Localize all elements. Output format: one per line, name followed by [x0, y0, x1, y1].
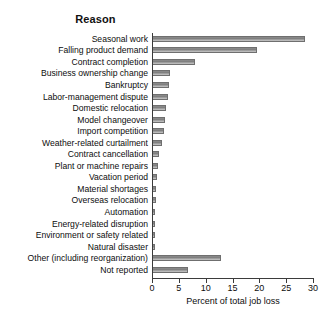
bar [152, 267, 188, 273]
x-tick-label: 10 [201, 283, 211, 293]
category-label: Not reported [100, 265, 148, 274]
x-axis-title: Percent of total job loss [152, 296, 314, 306]
x-tick-label: 20 [254, 283, 264, 293]
category-label: Vacation period [89, 173, 148, 182]
bar [152, 59, 195, 65]
bar-row: Plant or machine repairs [0, 160, 336, 172]
bar-row: Overseas relocation [0, 195, 336, 207]
bar-row: Other (including reorganization) [0, 252, 336, 264]
x-tick-label: 15 [227, 283, 237, 293]
bar-row: Model changeover [0, 114, 336, 126]
bar-row: Not reported [0, 264, 336, 276]
category-label: Weather-related curtailment [42, 138, 148, 147]
category-label: Model changeover [77, 115, 148, 124]
bar [152, 36, 305, 42]
chart-title: Reason [0, 13, 191, 25]
bar [152, 105, 166, 111]
bar-chart-figure: Reason Seasonal workFalling product dema… [0, 0, 336, 316]
bar-row: Material shortages [0, 183, 336, 195]
bar [152, 82, 169, 88]
bar-row: Labor-management dispute [0, 91, 336, 103]
bar-row: Weather-related curtailment [0, 137, 336, 149]
category-label: Seasonal work [92, 34, 148, 43]
bar [152, 117, 165, 123]
bar [152, 151, 159, 157]
category-label: Bankruptcy [105, 80, 148, 89]
bar [152, 197, 156, 203]
bar [152, 174, 157, 180]
bar-row: Domestic relocation [0, 102, 336, 114]
bar [152, 186, 156, 192]
category-label: Automation [105, 208, 148, 217]
bar-row: Bankruptcy [0, 79, 336, 91]
x-tick-label: 30 [308, 283, 318, 293]
bar-row: Natural disaster [0, 241, 336, 253]
bar [152, 47, 257, 53]
category-label: Domestic relocation [73, 104, 148, 113]
bar-row: Environment or safety related [0, 229, 336, 241]
bar [152, 128, 164, 134]
bar-row: Falling product demand [0, 45, 336, 57]
category-label: Overseas relocation [72, 196, 148, 205]
bar-row: Vacation period [0, 172, 336, 184]
category-label: Falling product demand [58, 46, 148, 55]
bar-row: Automation [0, 206, 336, 218]
bar-row: Contract completion [0, 56, 336, 68]
plot-area: Seasonal workFalling product demandContr… [0, 31, 336, 279]
category-label: Business ownership change [41, 69, 148, 78]
bar [152, 255, 221, 261]
category-label: Environment or safety related [36, 231, 148, 240]
category-label: Natural disaster [88, 242, 148, 251]
bar-row: Seasonal work [0, 33, 336, 45]
x-tick-label: 5 [176, 283, 181, 293]
bar-row: Business ownership change [0, 68, 336, 80]
bar-row: Contract cancellation [0, 149, 336, 161]
bar [152, 163, 158, 169]
category-label: Energy-related disruption [52, 219, 148, 228]
category-label: Labor-management dispute [43, 92, 148, 101]
category-label: Plant or machine repairs [55, 161, 148, 170]
x-tick-label: 25 [281, 283, 291, 293]
bar-row: Import competition [0, 125, 336, 137]
category-label: Contract cancellation [68, 150, 148, 159]
y-axis-line [152, 33, 153, 278]
bar [152, 94, 168, 100]
bar [152, 70, 170, 76]
category-label: Material shortages [77, 184, 148, 193]
x-tick-label: 0 [149, 283, 154, 293]
bar-row: Energy-related disruption [0, 218, 336, 230]
category-label: Import competition [77, 127, 148, 136]
bar [152, 140, 162, 146]
category-label: Contract completion [72, 57, 148, 66]
category-label: Other (including reorganization) [28, 254, 148, 263]
